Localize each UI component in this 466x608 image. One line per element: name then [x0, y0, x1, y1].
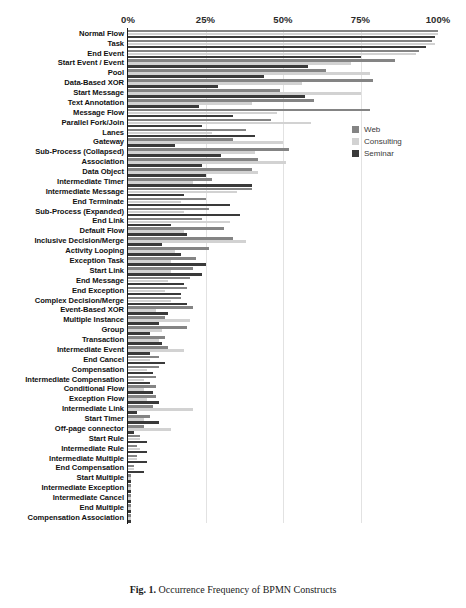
bar-group-data-object [128, 167, 438, 177]
bar-group-end-terminate [128, 197, 438, 207]
bar-group-intermediate-compensation [128, 375, 438, 385]
plot-area [128, 29, 438, 523]
bar-group-exception-task [128, 256, 438, 266]
bar-group-intermediate-event [128, 345, 438, 355]
category-label-inclusive-decision-merge: Inclusive Decision/Merge [0, 237, 124, 245]
legend-swatch-icon-web [352, 126, 359, 133]
category-label-multiple-instance: Multiple Instance [0, 316, 124, 324]
bar-group-start-message [128, 88, 438, 98]
bar-group-compensation-association [128, 513, 438, 523]
category-label-intermediate-message: Intermediate Message [0, 188, 124, 196]
category-label-group: Group [0, 326, 124, 334]
category-label-start-rule: Start Rule [0, 435, 124, 443]
bar-group-text-annotation [128, 98, 438, 108]
category-label-sub-process-expanded: Sub-Process (Expanded) [0, 208, 124, 216]
legend-label-consulting: Consulting [364, 137, 402, 146]
bar-group-activity-looping [128, 246, 438, 256]
category-label-text-annotation: Text Annotation [0, 99, 124, 107]
category-label-task: Task [0, 40, 124, 48]
bar-group-start-rule [128, 434, 438, 444]
category-label-compensation-association: Compensation Association [0, 514, 124, 522]
bar-compensation-association-seminar [128, 520, 131, 523]
category-label-start-link: Start Link [0, 267, 124, 275]
category-label-intermediate-cancel: Intermediate Cancel [0, 494, 124, 502]
bar-group-pool [128, 69, 438, 79]
bar-group-end-exception [128, 286, 438, 296]
bar-group-sub-process-expanded [128, 207, 438, 217]
category-label-pool: Pool [0, 69, 124, 77]
bar-group-intermediate-rule [128, 444, 438, 454]
category-label-transaction: Transaction [0, 336, 124, 344]
bar-group-start-link [128, 266, 438, 276]
category-label-activity-looping: Activity Looping [0, 247, 124, 255]
bar-group-start-multiple [128, 474, 438, 484]
legend-item-web: Web [352, 124, 452, 135]
category-label-parallel-fork-join: Parallel Fork/Join [0, 119, 124, 127]
bar-group-data-based-xor [128, 78, 438, 88]
category-label-end-terminate: End Terminate [0, 198, 124, 206]
bar-group-intermediate-link [128, 404, 438, 414]
category-label-end-multiple: End Multiple [0, 504, 124, 512]
category-label-end-cancel: End Cancel [0, 356, 124, 364]
caption-label: Fig. 1. [130, 584, 156, 595]
bar-group-end-link [128, 217, 438, 227]
chart-legend: WebConsultingSeminar [352, 124, 452, 160]
category-label-end-compensation: End Compensation [0, 464, 124, 472]
category-label-association: Association [0, 158, 124, 166]
category-label-conditional-flow: Conditional Flow [0, 385, 124, 393]
bar-group-conditional-flow [128, 385, 438, 395]
bar-group-compensation [128, 365, 438, 375]
category-label-message-flow: Message Flow [0, 109, 124, 117]
bar-group-intermediate-multiple [128, 454, 438, 464]
x-tick-0pct: 0% [121, 14, 135, 25]
category-label-intermediate-compensation: Intermediate Compensation [0, 376, 124, 384]
category-label-intermediate-event: Intermediate Event [0, 346, 124, 354]
bar-group-transaction [128, 335, 438, 345]
bar-group-intermediate-message [128, 187, 438, 197]
bar-group-intermediate-cancel [128, 493, 438, 503]
category-label-event-based-xor: Event-Based XOR [0, 306, 124, 314]
category-label-intermediate-exception: Intermediate Exception [0, 484, 124, 492]
legend-item-seminar: Seminar [352, 148, 452, 159]
category-label-default-flow: Default Flow [0, 227, 124, 235]
x-axis-tick-labels: 0%25%50%75%100% [0, 14, 466, 28]
x-tick-25pct: 25% [196, 14, 215, 25]
y-axis-category-labels: Normal FlowTaskEnd EventStart Event / Ev… [0, 29, 124, 523]
bar-group-message-flow [128, 108, 438, 118]
bar-group-task [128, 39, 438, 49]
legend-swatch-icon-consulting [352, 138, 359, 145]
category-label-sub-process-collapsed: Sub-Process (Collapsed) [0, 148, 124, 156]
category-label-exception-task: Exception Task [0, 257, 124, 265]
category-label-normal-flow: Normal Flow [0, 30, 124, 38]
bar-group-end-event [128, 49, 438, 59]
legend-swatch-icon-seminar [352, 150, 359, 157]
bar-group-group [128, 325, 438, 335]
category-label-compensation: Compensation [0, 366, 124, 374]
category-label-off-page-connector: Off-page connector [0, 425, 124, 433]
category-label-gateway: Gateway [0, 138, 124, 146]
category-label-intermediate-timer: Intermediate Timer [0, 178, 124, 186]
category-label-intermediate-link: Intermediate Link [0, 405, 124, 413]
category-label-data-object: Data Object [0, 168, 124, 176]
x-tick-50pct: 50% [273, 14, 292, 25]
x-tick-100pct: 100% [426, 14, 451, 25]
caption-text: Occurrence Frequency of BPMN Constructs [159, 584, 337, 595]
bar-group-inclusive-decision-merge [128, 236, 438, 246]
category-label-end-message: End Message [0, 277, 124, 285]
bar-group-default-flow [128, 227, 438, 237]
x-tick-75pct: 75% [351, 14, 370, 25]
bar-intermediate-link-consulting [128, 408, 193, 411]
category-label-end-event: End Event [0, 50, 124, 58]
legend-label-seminar: Seminar [364, 149, 394, 158]
category-label-start-timer: Start Timer [0, 415, 124, 423]
bar-group-normal-flow [128, 29, 438, 39]
bar-group-event-based-xor [128, 306, 438, 316]
category-label-start-message: Start Message [0, 89, 124, 97]
category-label-complex-decision-merge: Complex Decision/Merge [0, 297, 124, 305]
category-label-exception-flow: Exception Flow [0, 395, 124, 403]
bar-group-end-compensation [128, 464, 438, 474]
figure-container: 0%25%50%75%100% Normal FlowTaskEnd Event… [0, 0, 466, 608]
bar-group-start-timer [128, 414, 438, 424]
bar-group-complex-decision-merge [128, 296, 438, 306]
category-label-start-event-event: Start Event / Event [0, 59, 124, 67]
